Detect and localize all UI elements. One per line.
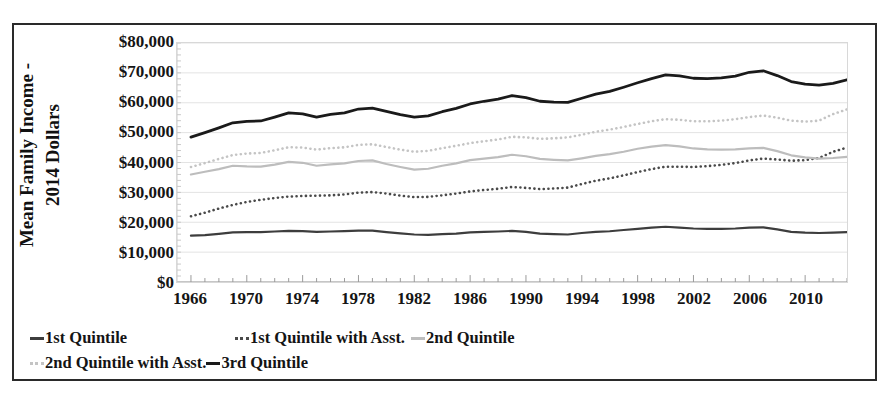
x-tick-label: 1986	[453, 289, 487, 309]
x-tick-label: 1998	[621, 289, 655, 309]
legend-label: 2nd Quintile with Asst.	[45, 353, 206, 373]
legend-item[interactable]: 2nd Quintile with Asst.	[30, 353, 206, 373]
series-line	[191, 71, 847, 137]
x-tick-label: 1970	[229, 289, 263, 309]
plot-area	[176, 42, 848, 283]
x-tick-label: 1982	[397, 289, 431, 309]
x-tick-label: 1990	[509, 289, 543, 309]
series-canvas	[177, 43, 847, 282]
x-tick-label: 1994	[565, 289, 599, 309]
y-tick-label: $50,000	[64, 122, 174, 142]
chart-screenshot: Mean Family Income - 2014 Dollars $80,00…	[0, 0, 889, 401]
y-tick-label: $80,000	[64, 32, 174, 52]
legend-marker-icon	[30, 357, 44, 369]
series-line	[191, 148, 847, 217]
y-tick-label: $0	[64, 273, 174, 293]
legend-item[interactable]: 1st Quintile with Asst.	[235, 328, 405, 348]
x-tick-label: 2010	[789, 289, 823, 309]
y-axis-tick-labels: $80,000$70,000$60,000$50,000$40,000$30,0…	[64, 36, 174, 296]
y-tick-label: $30,000	[64, 183, 174, 203]
legend-label: 3rd Quintile	[221, 353, 308, 373]
legend-marker-icon	[206, 357, 220, 369]
legend-label: 2nd Quintile	[426, 328, 515, 348]
y-tick-label: $70,000	[64, 62, 174, 82]
y-tick-label: $10,000	[64, 243, 174, 263]
series-line	[191, 227, 847, 236]
legend-item[interactable]: 2nd Quintile	[411, 328, 515, 348]
legend-label: 1st Quintile	[45, 328, 127, 348]
legend-label: 1st Quintile with Asst.	[250, 328, 405, 348]
chart-legend: 1st Quintile1st Quintile with Asst.2nd Q…	[30, 325, 860, 375]
x-tick-label: 2002	[677, 289, 711, 309]
x-tick-label: 1978	[341, 289, 375, 309]
x-axis-tick-labels: 1966197019741978198219861990199419982002…	[176, 289, 848, 317]
series-line	[191, 145, 847, 174]
x-tick-label: 2006	[733, 289, 767, 309]
y-axis-title-line2: 2014 Dollars	[40, 30, 66, 280]
legend-marker-icon	[235, 332, 249, 344]
legend-item[interactable]: 1st Quintile	[30, 328, 127, 348]
y-tick-label: $60,000	[64, 92, 174, 112]
legend-row-2: 2nd Quintile with Asst.3rd Quintile	[30, 350, 860, 375]
legend-marker-icon	[411, 332, 425, 344]
legend-row-1: 1st Quintile1st Quintile with Asst.2nd Q…	[30, 325, 860, 350]
y-tick-label: $20,000	[64, 213, 174, 233]
series-line	[191, 109, 847, 167]
x-tick-label: 1974	[285, 289, 319, 309]
legend-marker-icon	[30, 332, 44, 344]
x-tick-label: 1966	[173, 289, 207, 309]
legend-item[interactable]: 3rd Quintile	[206, 353, 308, 373]
y-tick-label: $40,000	[64, 153, 174, 173]
y-axis-title-line1: Mean Family Income -	[14, 30, 40, 280]
